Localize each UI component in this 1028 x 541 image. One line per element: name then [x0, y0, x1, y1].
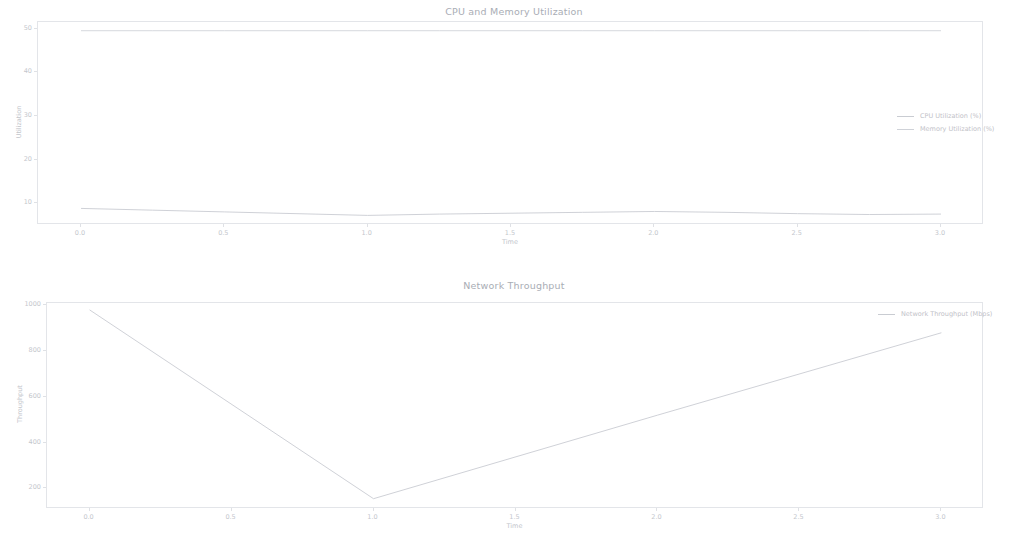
plot-area-network	[46, 302, 983, 508]
x-tick-mark	[940, 224, 941, 227]
x-tick-mark	[80, 224, 81, 227]
y-tick-mark	[34, 28, 37, 29]
x-tick-label: 1.5	[509, 513, 519, 521]
y-tick-mark	[43, 487, 46, 488]
y-tick-mark	[43, 304, 46, 305]
x-tick-mark	[367, 224, 368, 227]
x-tick-mark	[656, 508, 657, 511]
y-tick-mark	[34, 115, 37, 116]
x-tick-mark	[231, 508, 232, 511]
y-tick-label: 20	[0, 155, 32, 163]
x-tick-mark	[798, 508, 799, 511]
y-tick-label: 1000	[0, 300, 41, 308]
y-tick-label: 400	[0, 438, 41, 446]
x-tick-mark	[515, 508, 516, 511]
x-tick-mark	[653, 224, 654, 227]
y-tick-mark	[34, 202, 37, 203]
legend-item[interactable]: CPU Utilization (%)	[897, 110, 994, 123]
chart-title-cpu-memory: CPU and Memory Utilization	[0, 6, 1028, 17]
y-tick-label: 600	[0, 392, 41, 400]
series-line-0	[90, 310, 942, 499]
series-lines-network	[47, 303, 984, 509]
y-tick-label: 200	[0, 483, 41, 491]
chart-panel-network: Network Throughput Throughput 2004006008…	[0, 275, 1028, 541]
legend-item-label: Memory Utilization (%)	[920, 123, 994, 136]
legend-network: Network Throughput (Mbps)	[878, 308, 992, 321]
x-tick-label: 3.0	[935, 229, 945, 237]
y-axis-label-utilization: Utilization	[14, 20, 22, 223]
legend-line-swatch-icon	[897, 129, 914, 130]
x-tick-label: 0.0	[83, 513, 93, 521]
x-tick-label: 2.0	[648, 229, 658, 237]
legend-item-label: CPU Utilization (%)	[920, 110, 981, 123]
y-tick-mark	[43, 442, 46, 443]
chart-panel-cpu-memory: CPU and Memory Utilization Utilization 1…	[0, 0, 1028, 262]
legend-cpu-memory: CPU Utilization (%)Memory Utilization (%…	[897, 110, 994, 136]
x-tick-mark	[223, 224, 224, 227]
x-tick-label: 1.5	[505, 229, 515, 237]
x-tick-label: 1.0	[367, 513, 377, 521]
matplotlib-figure: CPU and Memory Utilization Utilization 1…	[0, 0, 1028, 541]
y-tick-label: 40	[0, 67, 32, 75]
x-tick-mark	[510, 224, 511, 227]
y-tick-label: 30	[0, 111, 32, 119]
legend-line-swatch-icon	[878, 314, 895, 315]
x-tick-label: 3.0	[935, 513, 945, 521]
x-tick-label: 0.5	[218, 229, 228, 237]
x-tick-label: 2.5	[793, 513, 803, 521]
x-tick-mark	[797, 224, 798, 227]
y-tick-mark	[34, 159, 37, 160]
x-tick-label: 1.0	[361, 229, 371, 237]
plot-area-cpu-memory	[37, 21, 983, 224]
x-tick-mark	[940, 508, 941, 511]
y-tick-label: 50	[0, 24, 32, 32]
x-tick-mark	[89, 508, 90, 511]
x-axis-label-time-cpu: Time	[37, 238, 983, 246]
x-tick-label: 2.5	[791, 229, 801, 237]
legend-item[interactable]: Memory Utilization (%)	[897, 123, 994, 136]
y-tick-mark	[43, 396, 46, 397]
y-tick-mark	[43, 350, 46, 351]
y-tick-label: 10	[0, 198, 32, 206]
legend-item-label: Network Throughput (Mbps)	[901, 308, 992, 321]
y-tick-label: 800	[0, 346, 41, 354]
x-tick-label: 0.5	[225, 513, 235, 521]
y-axis-label-throughput: Throughput	[16, 301, 24, 507]
legend-line-swatch-icon	[897, 116, 914, 117]
x-tick-mark	[373, 508, 374, 511]
x-axis-label-time-network: Time	[46, 522, 983, 530]
y-tick-mark	[34, 71, 37, 72]
legend-item[interactable]: Network Throughput (Mbps)	[878, 308, 992, 321]
x-tick-label: 0.0	[75, 229, 85, 237]
series-line-0	[81, 208, 941, 215]
series-lines-cpu-memory	[38, 22, 984, 225]
chart-title-network: Network Throughput	[0, 280, 1028, 291]
x-tick-label: 2.0	[651, 513, 661, 521]
